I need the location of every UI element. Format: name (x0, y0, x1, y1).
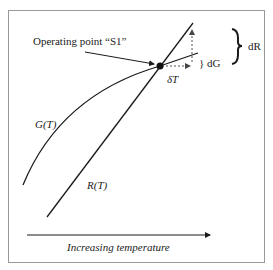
operating-point-label: Operating point “S1” (33, 36, 126, 47)
operating-point-dot (157, 63, 164, 70)
curve-g-label: G(T) (35, 119, 56, 130)
temperature-axis-label: Increasing temperature (67, 242, 170, 253)
dG-label: } dG (199, 58, 220, 69)
operating-point-pointer (85, 52, 154, 64)
deltaT-label: δT (167, 74, 178, 85)
dR-brace (232, 29, 242, 64)
frame-border (9, 11, 265, 263)
curve-r (47, 23, 193, 217)
curve-r-label: R(T) (87, 180, 107, 191)
dR-label: dR (248, 41, 261, 52)
